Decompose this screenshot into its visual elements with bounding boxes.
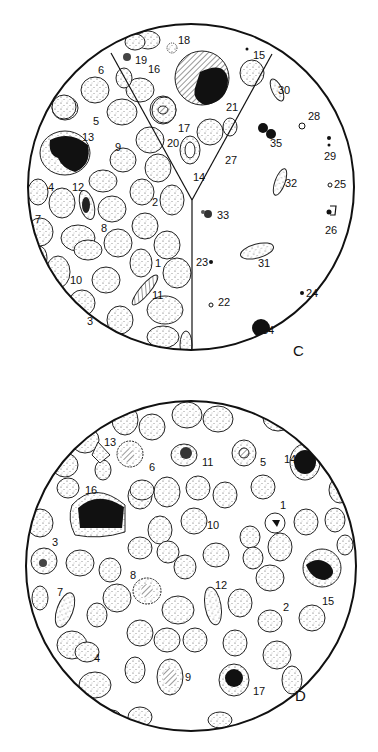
cell-number-label: 33 (217, 210, 229, 221)
cell-number-label: 7 (57, 587, 63, 598)
figure-canvas (0, 0, 378, 752)
cell-number-label: 9 (115, 142, 121, 153)
cell-number-label: 14 (284, 454, 296, 465)
cell-number-label: 13 (104, 437, 116, 448)
cell-number-label: 35 (270, 138, 282, 149)
cell-number-label: 21 (226, 102, 238, 113)
cell-number-label: 15 (322, 596, 334, 607)
cell-number-label: 5 (260, 457, 266, 468)
cell-number-label: 24 (306, 288, 318, 299)
cell-number-label: 26 (325, 225, 337, 236)
cell-number-label: 16 (85, 485, 97, 496)
cell-number-label: 31 (258, 258, 270, 269)
cell-number-label: 32 (285, 178, 297, 189)
cell-number-label: 14 (193, 172, 205, 183)
cell-number-label: 11 (202, 457, 213, 468)
cell-number-label: 29 (324, 151, 336, 162)
cell-number-label: 22 (218, 297, 230, 308)
cell-number-label: 4 (94, 653, 100, 664)
cell-number-label: 5 (93, 116, 99, 127)
cell-number-label: 8 (101, 223, 107, 234)
cell-number-label: 18 (178, 35, 190, 46)
cell-number-label: 25 (334, 179, 346, 190)
cell-number-label: 2 (152, 197, 158, 208)
cell-number-label: 15 (253, 50, 265, 61)
cell-number-label: 12 (72, 182, 84, 193)
cell-number-label: 23 (196, 257, 208, 268)
panel-c-cells (27, 31, 336, 359)
cell-number-label: 10 (70, 275, 82, 286)
cell-number-label: 19 (135, 55, 147, 66)
cell-number-label: 4 (48, 182, 54, 193)
cell-number-label: 17 (253, 686, 265, 697)
cell-number-label: 6 (98, 65, 104, 76)
cell-number-label: 2 (283, 602, 289, 613)
cell-number-label: 9 (185, 672, 191, 683)
cell-number-label: 17 (178, 123, 190, 134)
cell-number-label: 16 (148, 64, 160, 75)
cell-number-label: 3 (87, 316, 93, 327)
cell-number-label: 27 (225, 155, 237, 166)
panel-d-letter: D (295, 688, 306, 703)
cell-number-label: 20 (167, 138, 179, 149)
cell-number-label: 34 (262, 325, 274, 336)
cell-number-label: 3 (52, 537, 58, 548)
cell-number-label: 28 (308, 111, 320, 122)
cell-number-label: 11 (152, 290, 163, 301)
cell-number-label: 8 (130, 570, 136, 581)
cell-number-label: 30 (278, 85, 290, 96)
cell-number-label: 1 (280, 500, 286, 511)
cell-number-label: 13 (82, 132, 94, 143)
cell-number-label: 1 (155, 258, 161, 269)
cell-number-label: 7 (35, 214, 41, 225)
cell-number-label: 10 (207, 520, 219, 531)
panel-c-letter: C (293, 343, 304, 358)
cell-number-label: 6 (149, 462, 155, 473)
cell-number-label: 12 (215, 580, 227, 591)
